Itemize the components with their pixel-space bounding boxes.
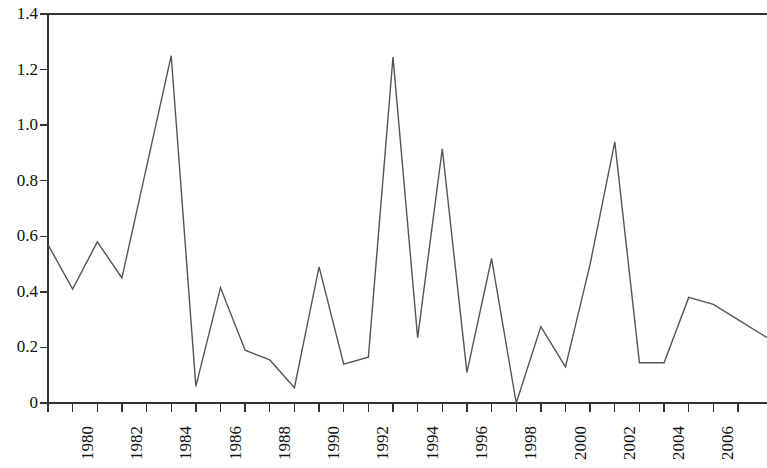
y-axis-tick-label: 1.0 — [17, 116, 38, 133]
y-axis-tick-label: 0.6 — [17, 227, 38, 244]
y-axis-tick-label: 0.8 — [17, 172, 38, 189]
y-axis-tick-labels: 00.20.40.60.81.01.21.4 — [0, 0, 40, 468]
y-axis-tick-label: 0 — [30, 394, 39, 411]
y-axis-tick-label: 1.2 — [17, 61, 38, 78]
y-axis-tick-label: 1.4 — [17, 5, 38, 22]
line-chart: 00.20.40.60.81.01.21.4 19801982198419861… — [0, 0, 767, 468]
plot-area — [0, 0, 767, 468]
y-axis-tick-label: 0.4 — [17, 283, 38, 300]
chart-axes — [48, 14, 767, 403]
y-axis-tick-label: 0.2 — [17, 338, 38, 355]
axis-ticks — [40, 14, 738, 412]
data-line — [48, 56, 767, 403]
